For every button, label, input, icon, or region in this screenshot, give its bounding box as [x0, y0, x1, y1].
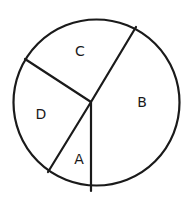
- slice-label-a: A: [74, 151, 84, 167]
- slice-label-c: C: [75, 43, 85, 59]
- pie-outline: [14, 20, 180, 186]
- pie-chart-canvas: C B D A: [0, 0, 190, 205]
- pie-chart: C B D A: [0, 0, 190, 205]
- slice-label-d: D: [36, 106, 47, 122]
- slice-label-b: B: [137, 94, 147, 110]
